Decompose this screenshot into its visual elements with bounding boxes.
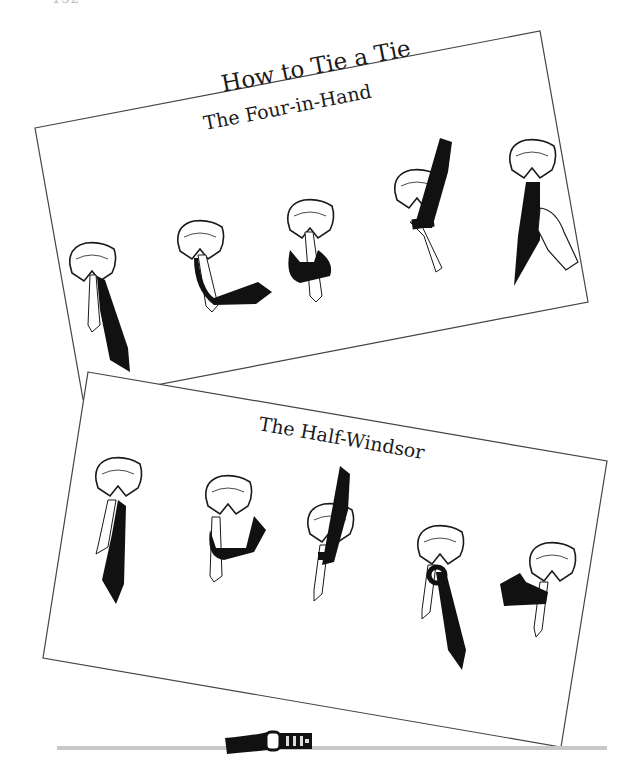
page-illustration: How to Tie a Tie The Four-in-Hand The Ha… [0,0,627,771]
